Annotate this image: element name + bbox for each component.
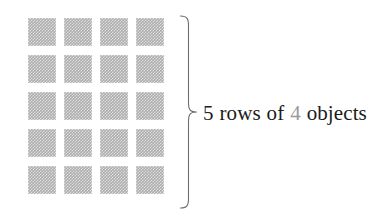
object-square <box>100 129 128 157</box>
object-square <box>136 55 164 83</box>
caption: 5 rows of 4 objects <box>203 99 367 127</box>
caption-of-word: of <box>267 103 285 124</box>
caption-rows-word: rows <box>219 103 260 124</box>
caption-rows-count: 5 <box>203 103 214 124</box>
object-square <box>64 18 92 46</box>
right-pointing-curly-brace-icon <box>176 14 200 210</box>
object-grid <box>28 18 164 194</box>
caption-objects-word: objects <box>307 103 367 124</box>
object-square <box>28 129 56 157</box>
object-square <box>136 166 164 194</box>
object-square <box>28 55 56 83</box>
object-square <box>64 92 92 120</box>
object-square <box>136 129 164 157</box>
object-square <box>100 166 128 194</box>
object-square <box>100 18 128 46</box>
object-square <box>136 92 164 120</box>
object-square <box>64 129 92 157</box>
object-square <box>100 55 128 83</box>
object-square <box>136 18 164 46</box>
object-square <box>100 92 128 120</box>
object-square <box>28 166 56 194</box>
diagram-canvas: 5 rows of 4 objects <box>0 0 386 218</box>
object-square <box>28 92 56 120</box>
grouping-brace <box>176 14 200 210</box>
object-square <box>28 18 56 46</box>
object-square <box>64 55 92 83</box>
caption-columns-count: 4 <box>290 103 301 124</box>
object-square <box>64 166 92 194</box>
